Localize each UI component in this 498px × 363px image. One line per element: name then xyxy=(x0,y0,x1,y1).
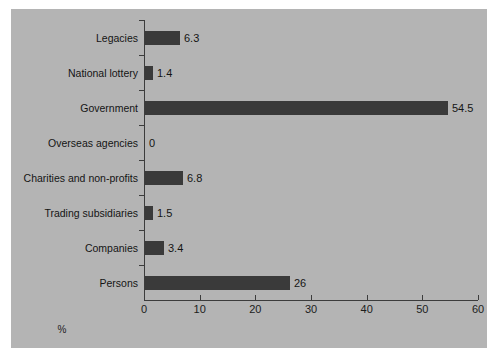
bar-value-label: 54.5 xyxy=(452,101,473,115)
x-tick-mark xyxy=(478,295,479,300)
category-label: Government xyxy=(0,101,138,115)
bar xyxy=(145,31,180,45)
bar-value-label: 0 xyxy=(149,136,155,150)
bar-chart-figure: 0102030405060 Legacies6.3National lotter… xyxy=(0,0,498,363)
x-tick-mark xyxy=(367,295,368,300)
bar-row: Charities and non-profits6.8 xyxy=(0,171,498,185)
x-tick-mark xyxy=(255,295,256,300)
bar xyxy=(145,241,164,255)
bar-value-label: 26 xyxy=(294,276,306,290)
x-tick-label: 10 xyxy=(180,303,220,315)
x-tick-label: 60 xyxy=(458,303,498,315)
y-axis-line xyxy=(144,20,145,301)
y-tick-mark xyxy=(139,195,144,196)
bar-row: Legacies6.3 xyxy=(0,31,498,45)
category-label: Overseas agencies xyxy=(0,136,138,150)
bar-value-label: 1.5 xyxy=(157,206,172,220)
y-tick-mark xyxy=(139,230,144,231)
bar xyxy=(145,66,153,80)
y-tick-mark xyxy=(139,55,144,56)
bar-row: Companies3.4 xyxy=(0,241,498,255)
bar-value-label: 6.8 xyxy=(187,171,202,185)
y-tick-mark xyxy=(139,20,144,21)
category-label: Companies xyxy=(0,241,138,255)
x-axis-title-label: % xyxy=(58,324,67,335)
y-tick-mark xyxy=(139,160,144,161)
x-tick-label: 30 xyxy=(291,303,331,315)
y-tick-mark xyxy=(139,125,144,126)
bar xyxy=(145,101,448,115)
bar-row: Overseas agencies0 xyxy=(0,136,498,150)
x-tick-label: 0 xyxy=(124,303,164,315)
x-tick-mark xyxy=(200,295,201,300)
bar-value-label: 6.3 xyxy=(184,31,199,45)
x-tick-label: 50 xyxy=(402,303,442,315)
x-tick-label: 40 xyxy=(347,303,387,315)
bar-row: Government54.5 xyxy=(0,101,498,115)
category-label: Charities and non-profits xyxy=(0,171,138,185)
bar xyxy=(145,171,183,185)
bar-row: Persons26 xyxy=(0,276,498,290)
bar xyxy=(145,206,153,220)
bar-value-label: 3.4 xyxy=(168,241,183,255)
x-tick-mark xyxy=(144,295,145,300)
x-tick-mark xyxy=(422,295,423,300)
x-axis-title: % xyxy=(0,324,498,335)
x-tick-mark xyxy=(311,295,312,300)
bar xyxy=(145,276,290,290)
x-tick-label: 20 xyxy=(235,303,275,315)
bar-value-label: 1.4 xyxy=(157,66,172,80)
category-label: Trading subsidiaries xyxy=(0,206,138,220)
x-axis-line xyxy=(144,300,478,301)
y-tick-mark xyxy=(139,90,144,91)
bar-row: Trading subsidiaries1.5 xyxy=(0,206,498,220)
category-label: National lottery xyxy=(0,66,138,80)
y-tick-mark xyxy=(139,265,144,266)
category-label: Persons xyxy=(0,276,138,290)
category-label: Legacies xyxy=(0,31,138,45)
bar-row: National lottery1.4 xyxy=(0,66,498,80)
